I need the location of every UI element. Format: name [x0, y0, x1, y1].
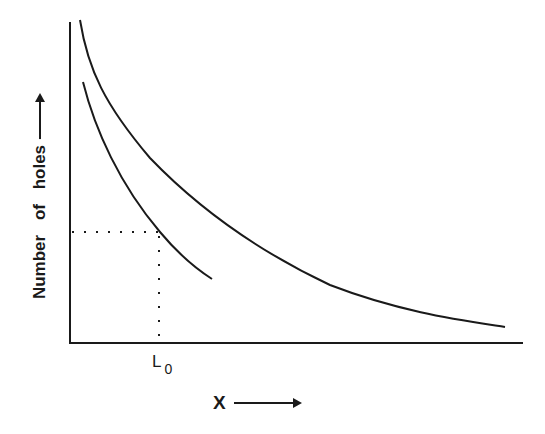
y-axis-arrow-icon [39, 101, 41, 139]
y-axis-label-text: Number of holes [30, 145, 50, 299]
upper-curve [80, 20, 505, 327]
x-axis-arrow-icon [234, 402, 294, 404]
chart-canvas [0, 0, 545, 434]
x-axis-label-text: X [213, 392, 226, 414]
x-axis-label: X [213, 392, 294, 414]
tick-subscript: 0 [164, 361, 172, 377]
tick-main: L [152, 352, 161, 371]
lower-curve [83, 82, 212, 279]
x-tick-label-L0: L0 [152, 352, 172, 374]
y-axis-label: Number of holes [30, 101, 50, 299]
